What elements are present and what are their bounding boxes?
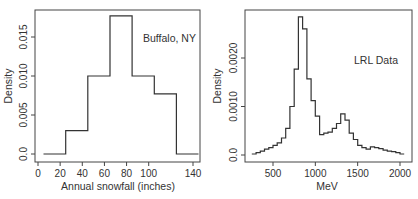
x-tick-label: 2000	[389, 168, 412, 179]
x-tick-label: 500	[265, 168, 282, 179]
x-tick-label: 40	[77, 168, 89, 179]
histogram-steps	[252, 17, 404, 154]
y-tick-label: 0.0	[18, 147, 29, 161]
y-tick-label: 0.015	[18, 24, 29, 49]
y-tick-label: 0.0020	[228, 42, 239, 73]
x-tick-label: 0	[35, 168, 41, 179]
x-tick-label: 1500	[347, 168, 370, 179]
y-tick-label: 0.0010	[228, 91, 239, 122]
snowfall-histogram-panel: 0204060801001400.00.0050.0100.015Annual …	[0, 0, 209, 199]
lrl-histogram-panel: 5001000150020000.00.00100.0020MeVDensity…	[209, 0, 418, 199]
y-tick-label: 0.010	[18, 63, 29, 88]
x-axis-label: MeV	[316, 180, 338, 192]
y-axis-label: Density	[211, 68, 223, 104]
y-axis-label: Density	[2, 68, 14, 104]
x-tick-label: 20	[55, 168, 67, 179]
x-tick-label: 80	[121, 168, 133, 179]
chart-annotation: LRL Data	[354, 54, 398, 66]
lrl-histogram: 5001000150020000.00.00100.0020MeVDensity…	[209, 0, 418, 199]
y-tick-label: 0.0	[228, 148, 239, 162]
x-tick-label: 100	[140, 168, 157, 179]
x-axis-label: Annual snowfall (inches)	[61, 180, 175, 192]
x-tick-label: 140	[185, 168, 202, 179]
x-tick-label: 1000	[304, 168, 327, 179]
chart-annotation: Buffalo, NY	[143, 32, 196, 44]
plot-frame	[245, 10, 412, 162]
snowfall-histogram: 0204060801001400.00.0050.0100.015Annual …	[0, 0, 209, 199]
y-tick-label: 0.005	[18, 102, 29, 127]
x-tick-label: 60	[99, 168, 111, 179]
